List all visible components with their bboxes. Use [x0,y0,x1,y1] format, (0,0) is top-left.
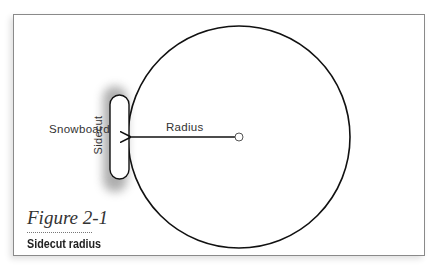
figure-caption: Sidecut radius [27,237,101,251]
figure-divider [27,232,92,233]
radius-label: Radius [166,121,204,133]
sidecut-label: Sidecut [92,105,104,165]
snowboard-shape [110,95,129,179]
figure-number: Figure 2-1 [27,207,108,229]
center-point-icon [235,133,243,141]
